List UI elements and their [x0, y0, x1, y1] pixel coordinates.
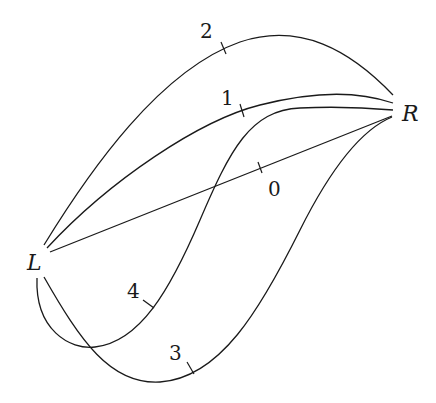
graph-diagram: 0 1 2 3 4 L R [0, 0, 436, 403]
edge-3-path [44, 117, 392, 382]
node-R: R [401, 101, 419, 126]
edge-0-label: 0 [268, 177, 281, 201]
edge-4: 4 [37, 107, 393, 347]
edge-0: 0 [50, 116, 392, 252]
edge-4-tick [143, 300, 154, 308]
node-L: L [26, 250, 42, 275]
edge-1-path [47, 94, 393, 248]
edge-1: 1 [47, 86, 393, 248]
edge-2-path [44, 35, 393, 245]
edge-4-path [37, 107, 393, 347]
edge-2-label: 2 [200, 19, 213, 43]
edge-2: 2 [44, 19, 393, 245]
edge-3-tick [187, 362, 194, 374]
edge-0-path [50, 116, 392, 252]
edge-3: 3 [44, 117, 392, 382]
edge-4-label: 4 [127, 279, 140, 303]
edge-3-label: 3 [169, 341, 182, 365]
edge-1-label: 1 [221, 86, 234, 110]
